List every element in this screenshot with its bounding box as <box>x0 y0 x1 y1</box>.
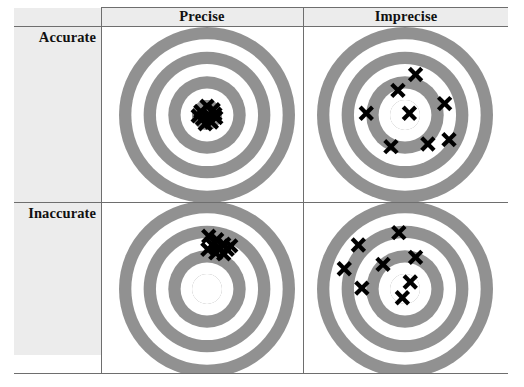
column-header-precise: Precise <box>101 7 303 26</box>
accuracy-precision-figure: Precise Imprecise Accurate Inaccurate <box>0 0 524 387</box>
bullseye-target <box>304 27 508 202</box>
row-header-accurate: Accurate <box>14 29 96 46</box>
bullseye-target <box>102 203 303 373</box>
row-header-band <box>14 8 101 355</box>
bullseye-target <box>304 203 508 373</box>
row-header-inaccurate: Inaccurate <box>14 205 96 222</box>
cell-inaccurate-imprecise <box>304 203 508 373</box>
column-header-imprecise: Imprecise <box>304 7 508 26</box>
cell-accurate-imprecise <box>304 27 508 202</box>
rule-bottom <box>14 373 508 374</box>
target-bullseye <box>192 274 222 304</box>
cell-accurate-precise <box>102 27 303 202</box>
cell-inaccurate-precise <box>102 203 303 373</box>
bullseye-target <box>102 27 303 202</box>
